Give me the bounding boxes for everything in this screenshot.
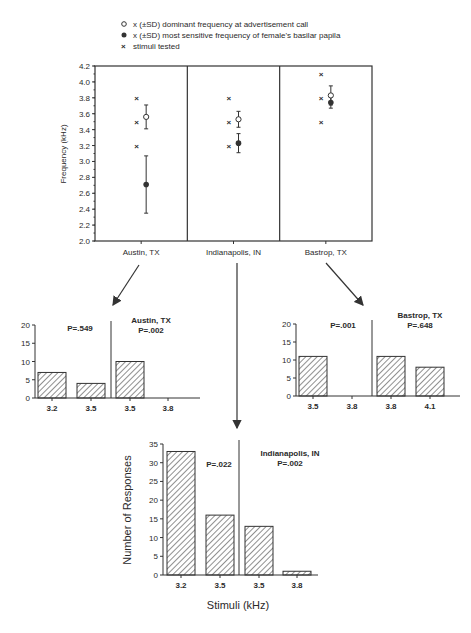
- y-tick-label: 20: [149, 496, 158, 505]
- y-tick-label: 2.2: [79, 221, 91, 230]
- x-axis-label: Stimuli (kHz): [207, 599, 269, 611]
- stimulus-marker: ×: [319, 118, 324, 127]
- bar: [245, 526, 273, 575]
- stimulus-marker: ×: [134, 118, 139, 127]
- x-tick-label: 3.2: [175, 581, 187, 590]
- x-tick-label: Austin, TX: [123, 248, 160, 257]
- x-tick-label: 3.8: [291, 581, 303, 590]
- bar: [38, 372, 66, 398]
- bar: [167, 451, 195, 575]
- x-tick-label: 3.8: [162, 404, 174, 413]
- y-tick-label: 35: [149, 440, 158, 449]
- x-tick-label: 3.5: [85, 404, 97, 413]
- x-tick-label: Indianapolis, IN: [206, 248, 261, 257]
- chart-title: Indianapolis, IN: [260, 449, 319, 458]
- indianapolis-bar-chart: Number of Responses Stimuli (kHz) 051015…: [121, 440, 320, 611]
- y-tick-label: 4.0: [79, 78, 91, 87]
- p-value-label: P=.648: [407, 321, 433, 330]
- austin-bar-chart: 051015203.23.53.53.8P=.549Austin, TXP=.0…: [21, 316, 200, 413]
- stimulus-marker: ×: [227, 94, 232, 103]
- sensitive-frequency-point: [328, 100, 334, 106]
- arrow-to-austin: [113, 265, 139, 305]
- bar: [77, 383, 105, 398]
- x-tick-label: 4.1: [424, 402, 436, 411]
- dominant-frequency-point: [236, 117, 241, 122]
- y-axis-label: Number of Responses: [121, 455, 133, 565]
- bastrop-bar-chart: 051015203.53.83.84.1P=.001Bastrop, TXP=.…: [282, 311, 460, 411]
- x-tick-label: 3.2: [46, 404, 58, 413]
- x-tick-label: 3.5: [214, 581, 226, 590]
- frequency-chart: Frequency (kHz) 2.02.22.42.62.83.03.23.4…: [59, 62, 372, 257]
- p-value-label: P=.549: [67, 324, 93, 333]
- y-tick-label: 4.2: [79, 62, 91, 71]
- stimulus-marker: ×: [227, 142, 232, 151]
- stimulus-marker: ×: [319, 70, 324, 79]
- bar: [416, 367, 444, 396]
- dominant-frequency-point: [144, 114, 149, 119]
- x-tick-label: 3.8: [346, 402, 358, 411]
- stimulus-marker: ×: [134, 94, 139, 103]
- bar: [283, 571, 311, 575]
- y-tick-label: 15: [149, 515, 158, 524]
- legend-item-sensitive: x (±SD) most sensitive frequency of fema…: [122, 31, 341, 40]
- x-tick-label: Bastrop, TX: [305, 248, 348, 257]
- bar: [116, 362, 144, 399]
- legend-item-dominant: x (±SD) dominant frequency at advertisem…: [122, 20, 309, 29]
- stimulus-marker: ×: [319, 94, 324, 103]
- y-tick-label: 2.8: [79, 173, 91, 182]
- p-value-label: P=.022: [206, 460, 232, 469]
- y-tick-label: 0: [154, 571, 159, 580]
- y-tick-label: 15: [21, 339, 30, 348]
- sensitive-frequency-point: [236, 140, 242, 146]
- y-tick-label: 30: [149, 459, 158, 468]
- chart-title: Bastrop, TX: [398, 311, 444, 320]
- legend: x (±SD) dominant frequency at advertisem…: [121, 20, 341, 51]
- y-tick-label: 3.4: [79, 126, 91, 135]
- x-tick-label: 3.5: [124, 404, 136, 413]
- y-tick-label: 5: [26, 376, 31, 385]
- stimulus-marker: ×: [227, 118, 232, 127]
- p-value-label: P=.002: [277, 459, 303, 468]
- y-tick-label: 0: [287, 392, 292, 401]
- legend-label: stimuli tested: [133, 42, 180, 51]
- chart-title: Austin, TX: [131, 316, 171, 325]
- legend-label: x (±SD) most sensitive frequency of fema…: [133, 31, 341, 40]
- y-tick-label: 10: [21, 358, 30, 367]
- y-tick-label: 0: [26, 394, 31, 403]
- arrow-to-bastrop: [326, 263, 363, 305]
- y-tick-label: 20: [282, 320, 291, 329]
- x-tick-label: 3.8: [385, 402, 397, 411]
- figure: x (±SD) dominant frequency at advertisem…: [0, 0, 471, 633]
- y-tick-label: 3.6: [79, 110, 91, 119]
- filled-circle-icon: [122, 33, 127, 38]
- open-circle-icon: [122, 22, 127, 27]
- bar: [377, 356, 405, 396]
- x-tick-label: 3.5: [307, 402, 319, 411]
- y-tick-label: 5: [154, 552, 159, 561]
- y-tick-label: 10: [282, 356, 291, 365]
- y-tick-label: 5: [287, 374, 292, 383]
- stimulus-marker: ×: [134, 142, 139, 151]
- y-tick-label: 20: [21, 321, 30, 330]
- legend-item-stimuli: × stimuli tested: [121, 42, 180, 51]
- bar: [299, 356, 327, 396]
- bar: [206, 515, 234, 575]
- y-tick-label: 2.0: [79, 237, 91, 246]
- y-tick-label: 3.8: [79, 94, 91, 103]
- p-value-label: P=.002: [138, 326, 164, 335]
- y-tick-label: 3.2: [79, 142, 91, 151]
- y-tick-label: 2.4: [79, 205, 91, 214]
- y-axis-label: Frequency (kHz): [59, 124, 68, 183]
- dominant-frequency-point: [328, 93, 333, 98]
- y-tick-label: 10: [149, 534, 158, 543]
- y-tick-label: 3.0: [79, 157, 91, 166]
- y-tick-label: 15: [282, 338, 291, 347]
- x-tick-label: 3.5: [253, 581, 265, 590]
- x-cross-icon: ×: [121, 42, 126, 51]
- p-value-label: P=.001: [330, 321, 356, 330]
- arrows: [113, 263, 363, 428]
- legend-label: x (±SD) dominant frequency at advertisem…: [133, 20, 308, 29]
- y-tick-label: 2.6: [79, 189, 91, 198]
- sensitive-frequency-point: [143, 182, 149, 188]
- y-tick-label: 25: [149, 477, 158, 486]
